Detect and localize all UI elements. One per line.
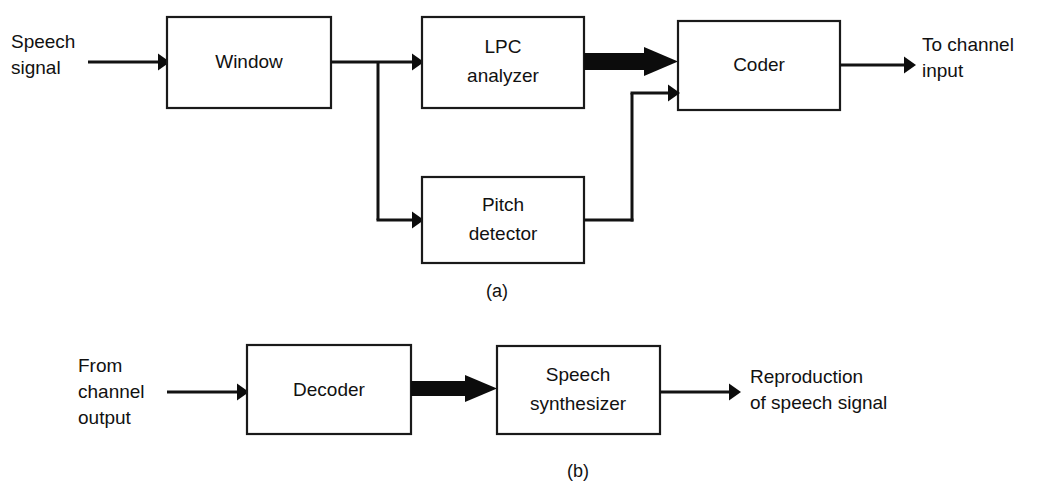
block-window-label: Window xyxy=(215,51,283,72)
block-speech-synthesizer-label-line2: synthesizer xyxy=(530,393,627,414)
block-speech-synthesizer xyxy=(497,346,660,434)
block-speech-synthesizer-label-line1: Speech xyxy=(546,364,610,385)
from-channel-output-label-line1: From xyxy=(78,355,122,376)
arrow-lpc-to-coder-thick xyxy=(584,47,678,76)
block-lpc-analyzer xyxy=(422,17,584,108)
block-coder-label: Coder xyxy=(733,54,785,75)
block-pitch-detector xyxy=(422,177,584,263)
arrow-speech-signal-to-window xyxy=(88,54,170,71)
speech-signal-input-label-line1: Speech xyxy=(11,31,75,52)
block-pitch-detector-label-line1: Pitch xyxy=(482,194,524,215)
block-pitch-detector-label-line2: detector xyxy=(469,223,538,244)
block-lpc-analyzer-label-line2: analyzer xyxy=(467,65,539,86)
from-channel-output-label-line3: output xyxy=(78,407,132,428)
diagram-canvas: Window LPC analyzer Coder Pitch detector… xyxy=(0,0,1042,496)
branch-window-output xyxy=(331,54,424,229)
to-channel-input-label-line2: input xyxy=(922,60,964,81)
arrow-coder-to-channel xyxy=(840,57,916,74)
arrow-decoder-to-synthesizer-thick xyxy=(411,375,497,402)
from-channel-output-label-line2: channel xyxy=(78,381,145,402)
reproduction-output-label-line1: Reproduction xyxy=(750,366,863,387)
block-decoder-label: Decoder xyxy=(293,379,365,400)
panel-b-caption: (b) xyxy=(567,461,589,481)
block-lpc-analyzer-label-line1: LPC xyxy=(485,36,522,57)
speech-signal-input-label-line2: signal xyxy=(11,57,61,78)
panel-a-caption: (a) xyxy=(486,281,508,301)
block-diagram-figure: Window LPC analyzer Coder Pitch detector… xyxy=(0,0,1042,496)
arrow-synthesizer-to-reproduction xyxy=(660,384,741,401)
arrow-channel-to-decoder xyxy=(167,384,249,401)
arrow-pitch-to-coder xyxy=(584,85,680,222)
reproduction-output-label-line2: of speech signal xyxy=(750,392,887,413)
to-channel-input-label-line1: To channel xyxy=(922,34,1014,55)
